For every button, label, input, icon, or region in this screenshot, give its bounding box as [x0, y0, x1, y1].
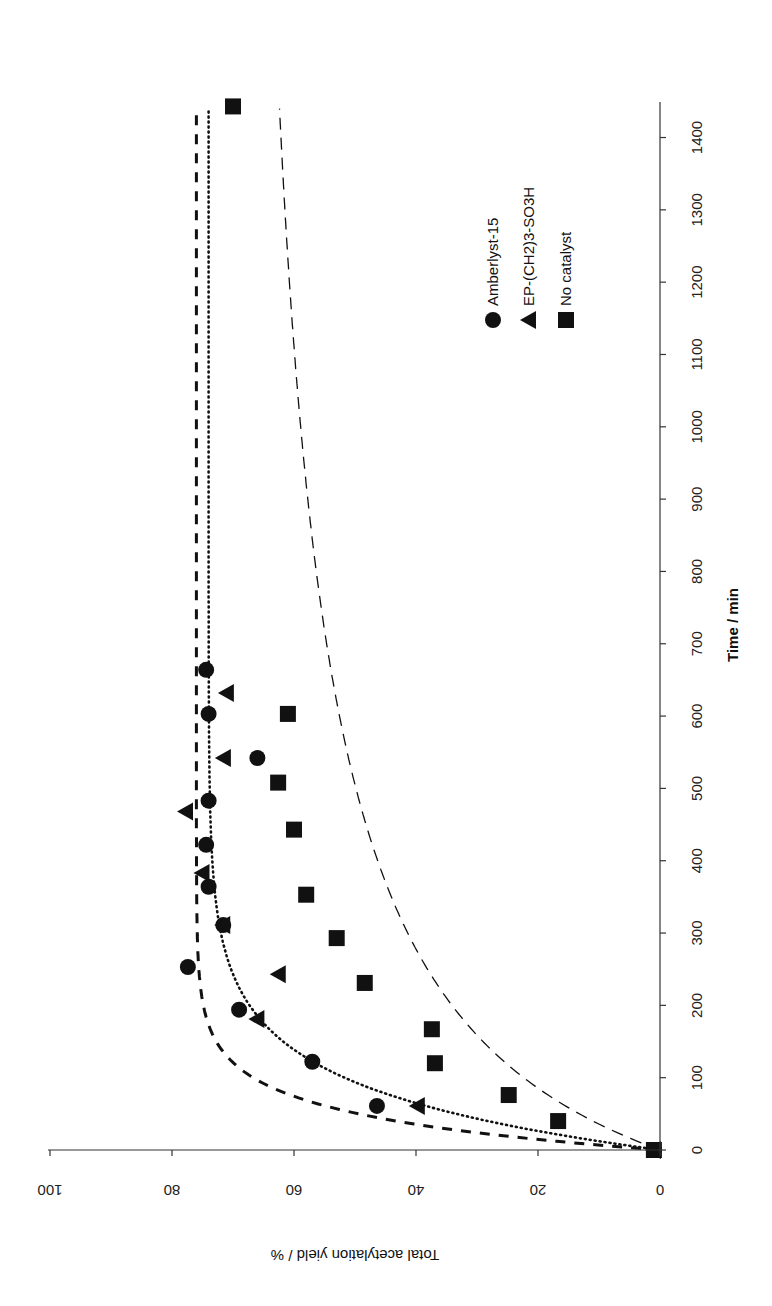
- time-tick-label: 1400: [688, 121, 705, 154]
- legend-square-icon: [558, 312, 574, 328]
- time-tick-label: 0: [688, 1146, 705, 1154]
- yield-tick-label: 60: [286, 1182, 303, 1199]
- square-marker: [550, 1113, 566, 1129]
- time-tick-label: 100: [688, 1065, 705, 1090]
- time-tick-label: 1200: [688, 265, 705, 298]
- circle-marker: [198, 662, 214, 678]
- circle-marker: [201, 706, 217, 722]
- yield-tick-label: 0: [656, 1182, 664, 1199]
- circle-marker: [180, 959, 196, 975]
- fit-curve-thin-dashed: [280, 109, 661, 1150]
- time-tick-label: 1300: [688, 193, 705, 226]
- legend-circle-icon: [485, 312, 501, 328]
- time-tick-label: 300: [688, 921, 705, 946]
- legend-label: EP-(CH2)3-SO3H: [520, 187, 537, 306]
- time-tick-label: 900: [688, 487, 705, 512]
- square-marker: [427, 1055, 443, 1071]
- square-marker: [424, 1021, 440, 1037]
- circle-marker: [231, 1002, 247, 1018]
- triangle-marker: [215, 749, 231, 767]
- square-marker: [329, 930, 345, 946]
- yield-tick-label: 80: [164, 1182, 181, 1199]
- time-tick-label: 400: [688, 848, 705, 873]
- yield-tick-label: 20: [530, 1182, 547, 1199]
- time-tick-label: 500: [688, 776, 705, 801]
- legend: Amberlyst-15EP-(CH2)3-SO3HNo catalyst: [484, 187, 574, 329]
- legend-label: No catalyst: [557, 231, 574, 306]
- triangle-marker: [270, 965, 286, 983]
- time-tick-label: 700: [688, 631, 705, 656]
- triangle-marker: [177, 803, 193, 821]
- time-axis-title: Time / min: [724, 588, 741, 662]
- square-marker: [286, 822, 302, 838]
- triangle-marker: [218, 684, 234, 702]
- yield-tick-label: 40: [408, 1182, 425, 1199]
- yield-tick-label: 100: [37, 1182, 62, 1199]
- yield-axis-title: Total acetylation yield / %: [271, 1247, 439, 1264]
- square-marker: [501, 1087, 517, 1103]
- acetylation-yield-chart: 0100200300400500600700800900100011001200…: [0, 0, 772, 1306]
- legend-triangle-icon: [520, 311, 536, 329]
- time-tick-label: 1100: [688, 338, 705, 370]
- circle-marker: [369, 1098, 385, 1114]
- axes: 0100200300400500600700800900100011001200…: [37, 102, 705, 1199]
- data-markers: [177, 98, 662, 1159]
- fit-curve-thick-dashed: [196, 109, 660, 1150]
- circle-marker: [249, 750, 265, 766]
- square-marker: [280, 706, 296, 722]
- fit-curves: [196, 109, 660, 1150]
- time-tick-label: 200: [688, 993, 705, 1018]
- time-tick-label: 800: [688, 559, 705, 584]
- square-marker: [225, 98, 241, 114]
- circle-marker: [304, 1054, 320, 1070]
- circle-marker: [198, 837, 214, 853]
- fit-curve-dotted: [209, 109, 660, 1150]
- square-marker: [270, 775, 286, 791]
- square-marker: [298, 887, 314, 903]
- legend-label: Amberlyst-15: [484, 218, 501, 306]
- time-tick-label: 1000: [688, 410, 705, 443]
- circle-marker: [201, 793, 217, 809]
- time-tick-label: 600: [688, 704, 705, 729]
- square-marker: [357, 975, 373, 991]
- triangle-marker: [409, 1097, 425, 1115]
